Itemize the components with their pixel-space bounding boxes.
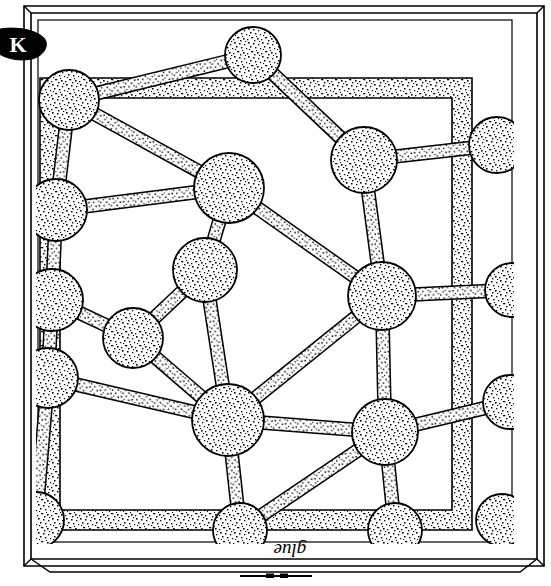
lattice-node (39, 70, 99, 130)
lattice-node (225, 27, 281, 83)
figure-root: K glue (0, 0, 551, 586)
lattice-node (331, 127, 397, 193)
lattice-node (194, 153, 264, 223)
strut (413, 285, 489, 301)
lattice-node (103, 308, 163, 368)
strut (376, 327, 391, 402)
lattice-node (192, 384, 264, 456)
blob-label: K (9, 32, 26, 57)
lattice-diagram-canvas: K glue (0, 0, 551, 586)
lattice-node (352, 399, 418, 465)
glue-label: glue (274, 540, 307, 561)
lattice-node (348, 262, 416, 330)
strut (47, 238, 62, 273)
lattice-node (173, 238, 237, 302)
glue-label-group: glue (274, 540, 307, 561)
